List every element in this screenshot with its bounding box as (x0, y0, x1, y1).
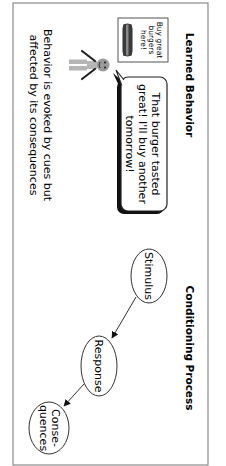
speech-line-2: great! I'll buy another (136, 84, 149, 204)
diagram-canvas: Learned Behavior Buy great burgers here!… (0, 0, 226, 466)
response-node: Response (81, 336, 117, 396)
speech-line-1: That burger tasted (149, 91, 162, 195)
svg-text:Conse-: Conse- (49, 409, 62, 447)
learned-behavior-heading: Learned Behavior (184, 33, 196, 138)
sign-line-3: here! (139, 30, 148, 50)
burger-icon (123, 24, 132, 56)
consequences-node: Conse- quences (29, 402, 69, 454)
caption-line-1: Behavior is evoked by cues but (41, 29, 54, 202)
stimulus-node: Stimulus (131, 249, 167, 303)
svg-text:Stimulus: Stimulus (142, 252, 155, 300)
burger-sign: Buy great burgers here! (118, 18, 168, 62)
conditioning-process-heading: Conditioning Process (184, 286, 196, 411)
sign-line-2: burgers (147, 26, 156, 55)
speech-bubble: That burger tasted great! I'll buy anoth… (113, 70, 167, 214)
speech-line-3: tomorrow! (123, 115, 136, 172)
svg-text:Response: Response (92, 340, 105, 393)
svg-text:quences: quences (37, 405, 50, 452)
caption-line-2: affected by its consequences (27, 35, 40, 196)
sign-line-1: Buy great (155, 22, 164, 59)
